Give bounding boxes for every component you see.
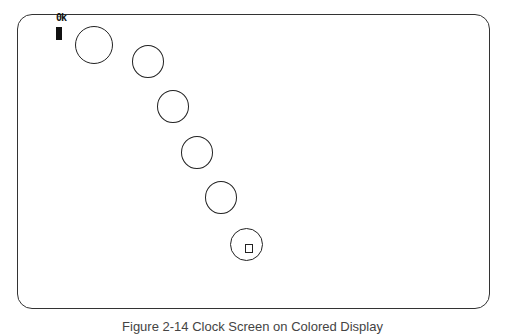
circle-4[interactable] <box>181 136 213 169</box>
circle-1[interactable] <box>75 26 113 64</box>
selection-marker-icon <box>245 244 253 253</box>
status-text: 0k <box>56 13 66 23</box>
circle-2[interactable] <box>132 45 164 78</box>
block-cursor-icon <box>56 27 62 40</box>
circle-6-selected[interactable] <box>230 228 263 261</box>
circle-3[interactable] <box>157 90 189 123</box>
circle-5[interactable] <box>205 181 237 214</box>
figure-caption: Figure 2-14 Clock Screen on Colored Disp… <box>0 319 505 334</box>
